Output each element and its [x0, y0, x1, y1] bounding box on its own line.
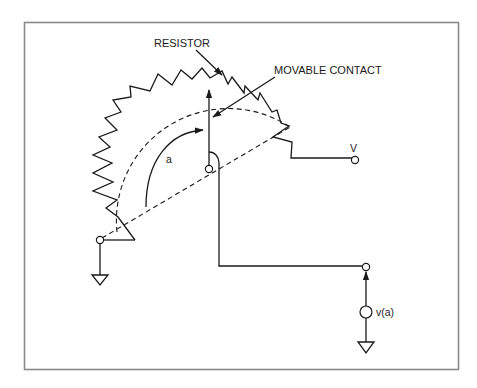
output-wire [219, 163, 363, 266]
resistor-track-arc [116, 109, 290, 232]
left-ground-icon [92, 275, 108, 285]
output-source-icon [360, 306, 372, 318]
left-terminal [96, 236, 103, 243]
pivot-connector [209, 152, 219, 163]
angle-arc [146, 130, 203, 207]
reference-baseline [102, 126, 292, 238]
output-ground-icon [358, 342, 374, 353]
movable-contact-leader [213, 77, 275, 117]
pivot-terminal [205, 165, 212, 172]
potentiometer-diagram: V a v(a) RESISTOR MOVABLE CONTACT [0, 0, 477, 388]
output-voltage-label: v(a) [376, 306, 394, 318]
angle-label: a [166, 153, 172, 165]
resistor-zigzag [93, 68, 354, 240]
supply-voltage-label: V [350, 142, 357, 154]
output-terminal [362, 263, 369, 270]
supply-terminal [351, 156, 358, 163]
movable-contact-label: MOVABLE CONTACT [274, 64, 382, 76]
resistor-label: RESISTOR [154, 37, 210, 49]
